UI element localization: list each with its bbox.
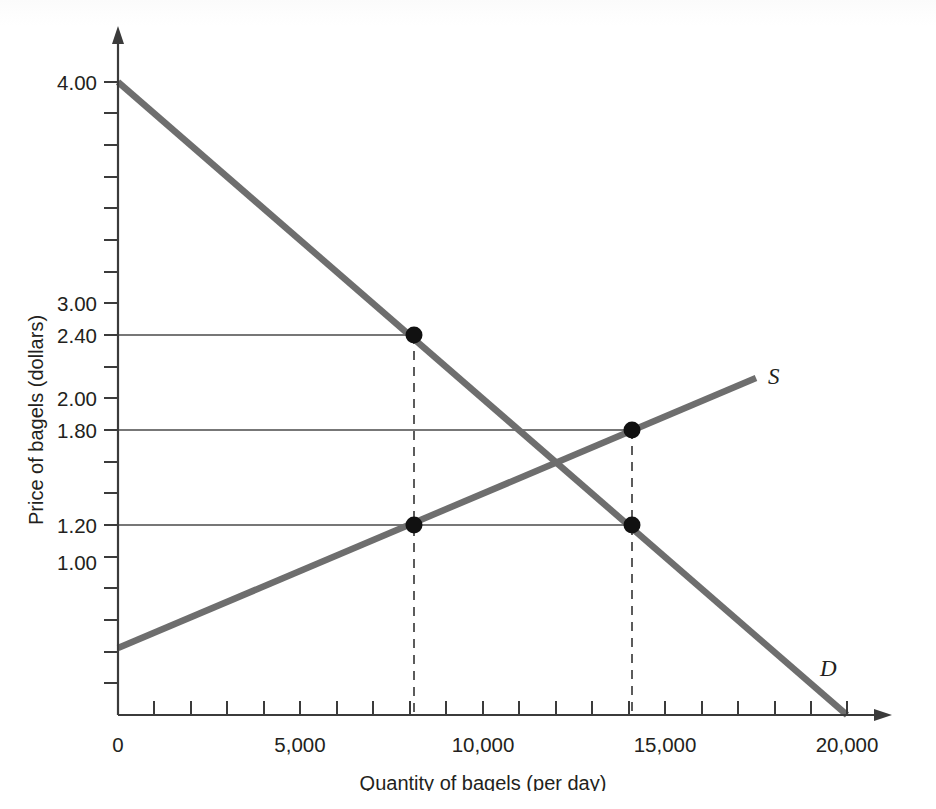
supply-curve-label: S (768, 364, 780, 389)
y-axis-title: Price of bagels (dollars) (25, 315, 47, 525)
y-tick-label-2-40: 2.40 (57, 324, 97, 347)
supply-demand-figure: 4.00 3.00 2.40 2.00 1.80 1.20 1.00 0 5,0… (0, 0, 936, 809)
x-tick-label-20000: 20,000 (816, 733, 879, 756)
y-tick-label-1-20: 1.20 (57, 514, 97, 537)
point-supply-8000-1-20 (406, 517, 423, 534)
y-tick-label-4-00: 4.00 (57, 71, 97, 94)
demand-curve-label: D (819, 656, 837, 681)
point-demand-8000-2-40 (406, 327, 423, 344)
y-tick-label-1-80: 1.80 (57, 419, 97, 442)
x-tick-label-5000: 5,000 (274, 733, 325, 756)
supply-demand-chart: 4.00 3.00 2.40 2.00 1.80 1.20 1.00 0 5,0… (0, 0, 936, 809)
chart-background (0, 0, 936, 809)
y-tick-label-2-00: 2.00 (57, 387, 97, 410)
y-tick-label-3-00: 3.00 (57, 292, 97, 315)
x-tick-label-15000: 15,000 (634, 733, 697, 756)
x-tick-label-0: 0 (112, 733, 123, 756)
x-axis-title: Quantity of bagels (per day) (360, 772, 607, 794)
y-tick-label-1-00: 1.00 (57, 551, 97, 574)
x-tick-label-10000: 10,000 (452, 733, 515, 756)
point-demand-14000-1-20 (624, 517, 641, 534)
point-supply-14000-1-80 (624, 422, 641, 439)
